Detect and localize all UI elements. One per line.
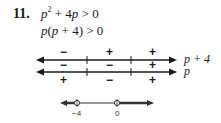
tick-label-neg4: −4	[72, 109, 81, 118]
sign-row1-interval2: +	[106, 45, 113, 59]
arrow-left-icon	[36, 69, 44, 76]
tick-label-0: 0	[115, 109, 119, 118]
sign-between-interval2: −	[106, 58, 113, 72]
sign-row1-interval1: −	[60, 45, 67, 59]
solution-number-line	[60, 99, 154, 107]
arrow-right-icon	[147, 100, 154, 106]
arrow-left-icon	[60, 100, 67, 106]
sign-row2-interval2: −	[106, 73, 113, 87]
sign-between-interval1: −	[60, 58, 67, 72]
arrow-right-icon	[169, 57, 177, 64]
sign-row2-interval1: +	[60, 73, 67, 87]
sign-row2-interval3: +	[149, 73, 156, 87]
arrow-right-icon	[169, 69, 177, 76]
arrow-left-icon	[36, 57, 44, 64]
factor-label-p: p	[184, 64, 190, 79]
sign-between-interval3: +	[149, 58, 156, 72]
sign-row1-interval3: +	[149, 45, 156, 59]
